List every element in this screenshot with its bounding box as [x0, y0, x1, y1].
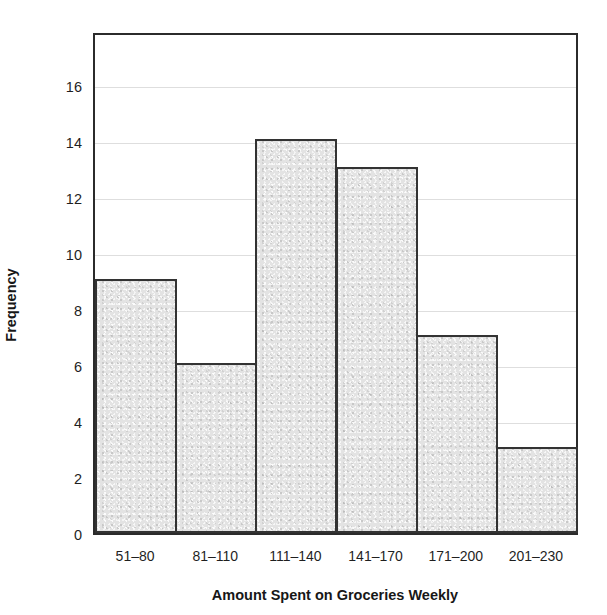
y-tick-label: 12	[52, 191, 82, 207]
x-tick-label: 201–230	[509, 548, 564, 564]
histogram-bar	[416, 335, 498, 533]
histogram-bar	[95, 279, 177, 533]
y-tick-label: 4	[52, 415, 82, 431]
histogram-bar	[336, 167, 418, 533]
x-axis-title: Amount Spent on Groceries Weekly	[212, 587, 458, 603]
bar-series	[95, 35, 576, 533]
y-tick-label: 10	[52, 247, 82, 263]
x-tick-label: 171–200	[428, 548, 483, 564]
y-tick-label: 2	[52, 471, 82, 487]
x-tick-label: 81–110	[192, 548, 238, 564]
histogram-figure: g 0246810121416 51–8081–110111–140141–17…	[0, 0, 607, 615]
y-tick-label: 6	[52, 359, 82, 375]
histogram-bar	[175, 363, 257, 533]
plot-area	[93, 33, 578, 535]
histogram-bar	[255, 139, 337, 533]
x-tick-label: 111–140	[269, 548, 321, 564]
x-tick-label: 141–170	[348, 548, 403, 564]
y-tick-label: 14	[52, 135, 82, 151]
y-tick-label: 16	[52, 79, 82, 95]
y-axis-title: Frequency	[3, 268, 19, 341]
y-tick-label: 0	[52, 527, 82, 543]
y-tick-label: 8	[52, 303, 82, 319]
histogram-bar	[496, 447, 578, 533]
x-tick-label: 51–80	[116, 548, 155, 564]
